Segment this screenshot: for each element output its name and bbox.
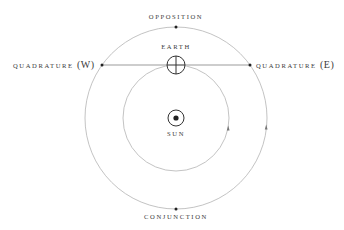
quadrature-w-direction: (W) (77, 59, 95, 70)
quadrature-e-point (249, 64, 252, 67)
sun-label: Sun (0, 131, 344, 138)
quadrature-e-text: Quadrature (256, 62, 317, 69)
conjunction-point (175, 208, 178, 211)
orbit-diagram (0, 0, 344, 230)
inner-orbit-arrow-icon (227, 126, 230, 131)
quadrature-w-label: Quadrature (W) (13, 60, 95, 70)
quadrature-e-label: Quadrature (E) (256, 60, 334, 70)
earth-label: Earth (0, 44, 344, 51)
quadrature-w-point (101, 64, 104, 67)
sun-icon (168, 110, 184, 126)
opposition-label: Opposition (0, 14, 344, 21)
opposition-point (175, 26, 178, 29)
outer-orbit-arrow-icon (265, 125, 268, 130)
conjunction-label: Conjunction (0, 214, 344, 221)
earth-icon (167, 56, 185, 74)
quadrature-w-text: Quadrature (13, 62, 74, 69)
quadrature-e-direction: (E) (320, 59, 334, 70)
